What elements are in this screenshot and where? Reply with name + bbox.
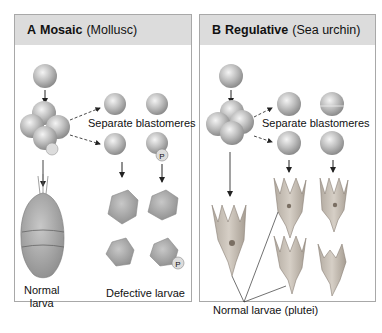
svg-text:P: P — [159, 152, 164, 161]
four-cell-embryo-a — [20, 101, 70, 155]
panel-a-art: P P — [20, 64, 184, 278]
panel-a-separate-label: Separate blastomeres — [88, 117, 196, 129]
normal-label-line1: Normal — [24, 284, 59, 297]
zygote-b — [219, 64, 243, 88]
plutei — [212, 178, 348, 296]
four-cell-embryo-b — [206, 100, 254, 145]
panel-b-normal-label: Normal larvae (plutei) — [213, 304, 318, 316]
defective-larvae — [106, 190, 178, 266]
svg-text:P: P — [175, 260, 180, 269]
normal-larva-a — [21, 174, 64, 278]
panel-b-art — [206, 64, 348, 302]
panel-a-defective-label: Defective larvae — [106, 287, 185, 299]
zygote-a — [33, 64, 57, 88]
panel-a-normal-label: Normal larva — [24, 284, 59, 310]
normal-label-line2: larva — [24, 297, 59, 310]
panel-b-separate-label: Separate blastomeres — [262, 117, 370, 129]
